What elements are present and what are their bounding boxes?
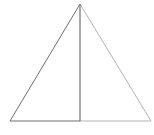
left-side-line bbox=[10, 4, 80, 121]
triangle-diagram bbox=[0, 0, 154, 135]
right-side-line bbox=[80, 4, 151, 121]
